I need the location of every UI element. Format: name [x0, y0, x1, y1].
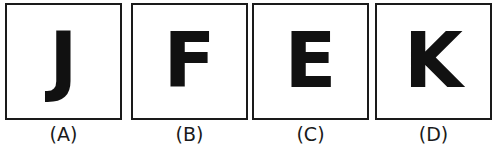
panel-label-a: (A): [5, 124, 122, 145]
panel-c: E (C): [252, 0, 373, 162]
letter-panel-figure: J (A) F (B) E (C) K (D): [0, 0, 500, 162]
panel-label-c: (C): [252, 124, 369, 145]
panel-label-d: (D): [375, 124, 492, 145]
letter-box-d: K: [375, 3, 492, 120]
letter-glyph-a: J: [49, 23, 77, 99]
panel-b: F (B): [131, 0, 252, 162]
panel-d: K (D): [375, 0, 496, 162]
letter-glyph-d: K: [404, 23, 463, 99]
panel-label-b: (B): [131, 124, 248, 145]
letter-box-a: J: [5, 3, 122, 120]
letter-box-b: F: [131, 3, 248, 120]
letter-glyph-b: F: [164, 23, 216, 99]
letter-glyph-c: E: [285, 23, 337, 99]
panel-a: J (A): [5, 0, 126, 162]
letter-box-c: E: [252, 3, 369, 120]
